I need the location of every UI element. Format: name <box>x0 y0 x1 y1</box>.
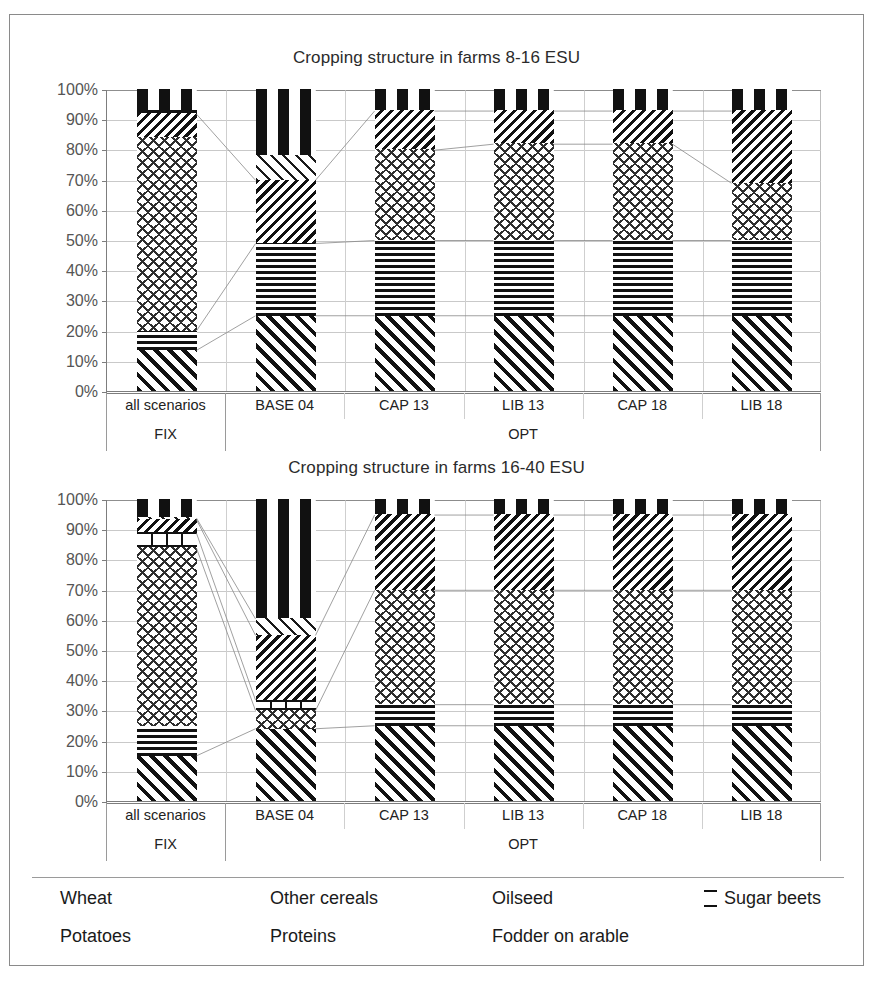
y-tick <box>102 211 107 212</box>
bar-segment-sugar-beets <box>137 532 197 547</box>
bar-all-scenarios <box>137 89 197 391</box>
x-axis-top: all scenariosBASE 04CAP 13LIB 13CAP 18LI… <box>106 393 821 455</box>
y-tick <box>102 120 107 121</box>
legend-item: Sugar beets <box>704 888 821 909</box>
bar-cap-13 <box>375 89 435 391</box>
y-tick-label: 60% <box>66 612 98 630</box>
sugar-beet-tick <box>285 702 287 709</box>
proteins-swatch <box>250 930 263 943</box>
category-separator <box>703 500 704 801</box>
y-tick <box>102 591 107 592</box>
y-tick-label: 80% <box>66 551 98 569</box>
legend-item: Wheat <box>40 888 112 909</box>
legend-label: Other cereals <box>270 888 378 909</box>
x-tick-label: all scenarios <box>106 807 225 823</box>
bar-segment-oilseed <box>494 110 554 143</box>
legend-item: Fodder on arable <box>472 926 629 947</box>
x-axis-divider <box>702 393 703 419</box>
y-tick-label: 20% <box>66 733 98 751</box>
x-tick-label: LIB 18 <box>702 807 821 823</box>
y-tick <box>102 150 107 151</box>
y-tick-label: 30% <box>66 292 98 310</box>
bar-lib-13 <box>494 499 554 801</box>
bar-segment-oilseed <box>256 180 316 243</box>
y-tick <box>102 742 107 743</box>
x-axis-divider <box>344 393 345 419</box>
x-tick-label: CAP 13 <box>344 807 463 823</box>
bar-segment-oilseed <box>732 110 792 182</box>
bar-segment-wheat <box>137 756 197 801</box>
bar-segment-proteins <box>375 704 435 725</box>
y-tick-label: 100% <box>57 81 98 99</box>
y-tick-label: 20% <box>66 323 98 341</box>
bar-segment-proteins <box>732 240 792 316</box>
y-tick <box>102 651 107 652</box>
y-tick-label: 10% <box>66 353 98 371</box>
x-axis-divider <box>583 393 584 419</box>
bar-base-04 <box>256 499 316 801</box>
bar-segment-oilseed <box>256 635 316 700</box>
potatoes-swatch <box>40 930 53 943</box>
bar-segment-fodder-on-arable <box>494 499 554 514</box>
bar-all-scenarios <box>137 499 197 801</box>
y-tick-label: 60% <box>66 202 98 220</box>
x-tick-label: BASE 04 <box>225 807 344 823</box>
x-tick-label: CAP 18 <box>583 807 702 823</box>
x-tick-label: LIB 18 <box>702 397 821 413</box>
category-separator <box>345 500 346 801</box>
legend-item: Proteins <box>250 926 336 947</box>
chart-title-bottom: Cropping structure in farms 16-40 ESU <box>10 458 863 478</box>
bar-cap-18 <box>613 89 673 391</box>
bar-segment-other-cereals <box>494 590 554 705</box>
y-tick-label: 100% <box>57 491 98 509</box>
legend-label: Proteins <box>270 926 336 947</box>
bar-segment-other-cereals <box>613 590 673 705</box>
y-tick <box>102 332 107 333</box>
bar-segment-oilseed <box>375 514 435 590</box>
bar-segment-proteins <box>494 240 554 316</box>
bar-lib-18 <box>732 499 792 801</box>
y-tick <box>102 530 107 531</box>
bar-lib-13 <box>494 89 554 391</box>
bar-base-04 <box>256 89 316 391</box>
bar-segment-oilseed <box>375 110 435 149</box>
sugar-beet-tick <box>270 702 272 709</box>
bar-segment-wheat <box>494 726 554 802</box>
legend-label: Wheat <box>60 888 112 909</box>
bar-segment-fodder-on-arable <box>375 89 435 110</box>
bar-segment-proteins <box>137 331 197 351</box>
sugar-beet-tick <box>166 534 168 545</box>
x-group-label-opt: OPT <box>225 836 821 852</box>
y-tick-label: 90% <box>66 111 98 129</box>
other-cereals-swatch <box>250 892 263 905</box>
x-tick-label: all scenarios <box>106 397 225 413</box>
legend-item: Oilseed <box>472 888 553 909</box>
legend-item: Potatoes <box>40 926 131 947</box>
x-tick-label: CAP 13 <box>344 397 463 413</box>
legend-row-2: PotatoesProteinsFodder on arable <box>32 926 844 962</box>
bar-segment-fodder-on-arable <box>732 89 792 110</box>
sugar-beet-tick <box>181 534 183 545</box>
bar-segment-other-cereals <box>732 183 792 240</box>
legend-row-1: WheatOther cerealsOilseedSugar beets <box>32 888 844 924</box>
plot-area-bottom <box>106 500 821 802</box>
y-tick <box>102 241 107 242</box>
bar-segment-proteins <box>494 704 554 725</box>
fodder-swatch <box>472 930 485 943</box>
x-tick-label: LIB 13 <box>464 397 583 413</box>
bar-segment-sugar-beets <box>256 700 316 711</box>
bar-segment-wheat <box>732 316 792 392</box>
bar-segment-other-cereals <box>613 143 673 240</box>
y-tick-label: 30% <box>66 702 98 720</box>
y-tick <box>102 681 107 682</box>
x-axis-divider <box>344 803 345 829</box>
x-axis-bottom: all scenariosBASE 04CAP 13LIB 13CAP 18LI… <box>106 803 821 865</box>
y-axis-labels-bottom: 100%90%80%70%60%50%40%30%20%10%0% <box>38 500 98 802</box>
y-tick <box>102 181 107 182</box>
y-tick <box>102 362 107 363</box>
y-tick-label: 70% <box>66 172 98 190</box>
y-tick <box>102 271 107 272</box>
bar-segment-other-cereals <box>256 710 316 728</box>
x-axis-divider <box>464 803 465 829</box>
bar-segment-wheat <box>137 350 197 391</box>
